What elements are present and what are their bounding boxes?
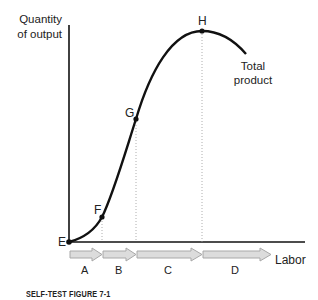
point-h <box>199 28 204 33</box>
label-e: E <box>58 236 66 249</box>
point-e <box>66 239 72 245</box>
arrow-a <box>70 248 102 261</box>
range-label-c: C <box>164 264 172 277</box>
range-label-a: A <box>81 264 88 277</box>
label-h: H <box>198 15 207 28</box>
label-f: F <box>94 204 101 217</box>
x-axis-label: Labor <box>275 254 306 267</box>
arrow-c <box>137 248 202 261</box>
curve-label-line1: Total <box>230 59 276 73</box>
range-label-d: D <box>231 264 239 277</box>
curve-label: Total product <box>230 59 276 87</box>
figure-caption: SELF-TEST FIGURE 7-1 <box>26 289 110 299</box>
range-label-b: B <box>115 264 122 277</box>
arrow-b <box>103 248 136 261</box>
range-arrows <box>70 248 271 261</box>
label-g: G <box>125 107 134 120</box>
curve-label-line2: product <box>230 73 276 87</box>
arrow-d <box>203 248 271 261</box>
total-product-chart <box>0 0 318 300</box>
